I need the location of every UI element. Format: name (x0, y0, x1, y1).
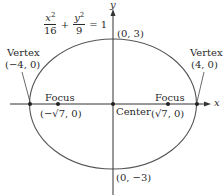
bottom-point-label: (0, −3) (116, 173, 151, 183)
focus-right-coord: (√7, 0) (151, 109, 184, 119)
x-axis-arrow-icon (204, 102, 211, 107)
center-label: Center (116, 107, 151, 117)
plus-sign: + (61, 19, 69, 30)
vertex-right-title: Vertex (190, 48, 223, 58)
diagram-graphics (0, 0, 224, 195)
focus-right-title: Focus (155, 93, 185, 103)
vertex-right-leader (197, 72, 204, 102)
equation-rhs: = 1 (89, 19, 107, 30)
fraction-y: y2 9 (73, 12, 85, 36)
center-point (111, 102, 115, 106)
vertex-right-coord: (4, 0) (191, 60, 218, 70)
vertex-left-leader (22, 72, 30, 102)
x-axis-label: x (214, 98, 220, 108)
focus-left-title: Focus (45, 93, 75, 103)
top-point-label: (0, 3) (117, 29, 144, 39)
y-axis-label: y (110, 0, 116, 10)
ellipse-diagram: x2 16 + y2 9 = 1 y x (0, 3) (0, −3) Cent… (0, 0, 224, 195)
vertex-left-point (28, 102, 32, 106)
y-axis-arrow-icon (111, 9, 116, 16)
fraction-x: x2 16 (44, 12, 57, 36)
ellipse-equation: x2 16 + y2 9 = 1 (44, 12, 107, 36)
vertex-left-title: Vertex (7, 48, 40, 58)
vertex-right-point (195, 102, 199, 106)
vertex-left-coord: (−4, 0) (5, 60, 40, 70)
focus-left-coord: (−√7, 0) (40, 109, 82, 119)
